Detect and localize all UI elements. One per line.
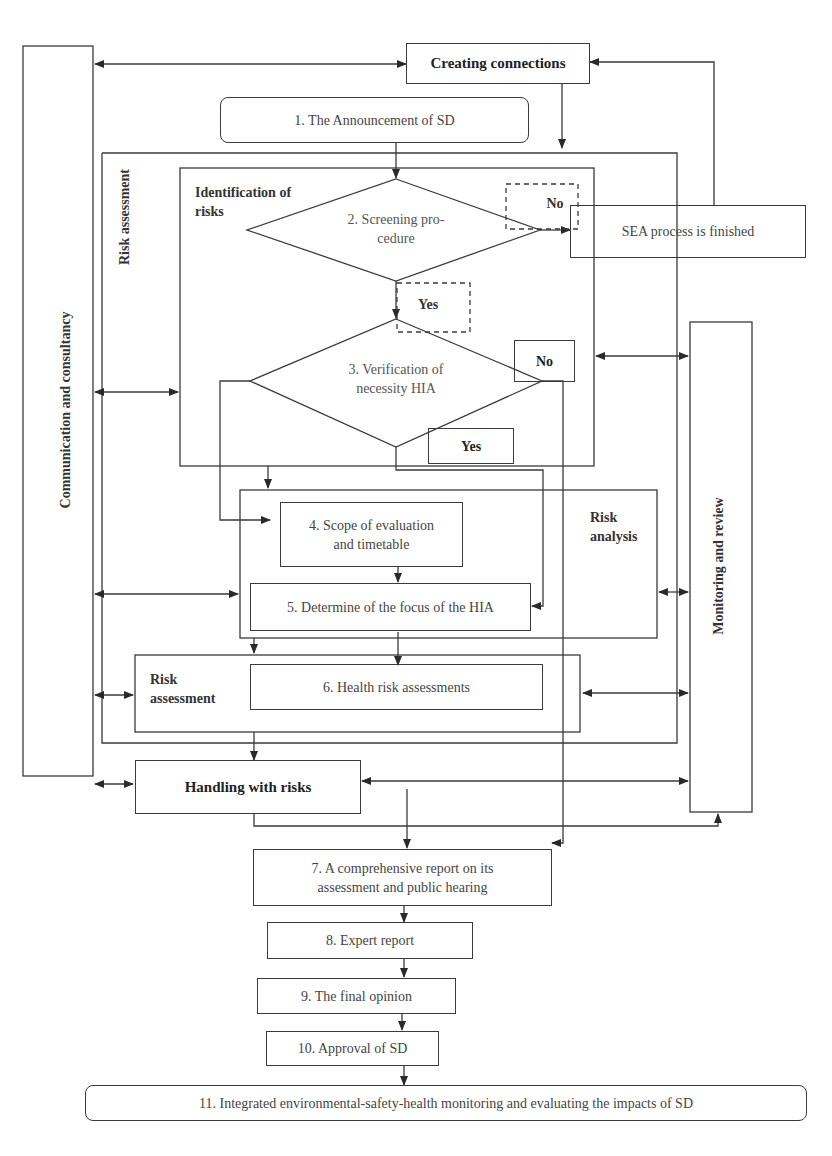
screening-procedure-text[interactable]: 2. Screening pro- cedure — [316, 210, 476, 248]
risk-assessment-inner-label: Risk assessment — [150, 670, 215, 708]
hia-flowchart: Communication and consultancy Monitoring… — [0, 0, 832, 1156]
step-10-approval[interactable]: 10. Approval of SD — [266, 1031, 439, 1066]
step-1-announcement[interactable]: 1. The Announcement of SD — [220, 97, 529, 143]
step-6-health-risk[interactable]: 6. Health risk assessments — [250, 664, 543, 710]
step-5-focus[interactable]: 5. Determine of the focus of the HIA — [250, 583, 531, 631]
monitoring-review-label: Monitoring and review — [711, 466, 731, 666]
screening-no-label: No — [540, 196, 570, 212]
step-9-final-opinion[interactable]: 9. The final opinion — [257, 978, 456, 1014]
risk-analysis-label: Risk analysis — [590, 508, 637, 546]
step-8-expert-report[interactable]: 8. Expert report — [267, 922, 473, 959]
verification-yes-label: Yes — [428, 428, 514, 464]
creating-connections-box[interactable]: Creating connections — [406, 43, 590, 84]
step-11-integrated-monitoring[interactable]: 11. Integrated environmental-safety-heal… — [85, 1085, 807, 1121]
risk-assessment-outer-label: Risk assessment — [117, 152, 137, 282]
screening-yes-label: Yes — [408, 297, 448, 313]
sea-process-finished-box[interactable]: SEA process is finished — [570, 205, 806, 258]
step-4-scope[interactable]: 4. Scope of evaluation and timetable — [280, 502, 463, 567]
step-7-comprehensive-report[interactable]: 7. A comprehensive report on its assessm… — [253, 849, 552, 906]
verification-necessity-text[interactable]: 3. Verification of necessity HIA — [316, 360, 476, 398]
verification-no-label: No — [514, 340, 575, 382]
identification-label: Identification of risks — [195, 183, 291, 221]
communication-consultancy-label: Communication and consultancy — [58, 225, 78, 595]
handling-with-risks-box[interactable]: Handling with risks — [135, 760, 361, 814]
